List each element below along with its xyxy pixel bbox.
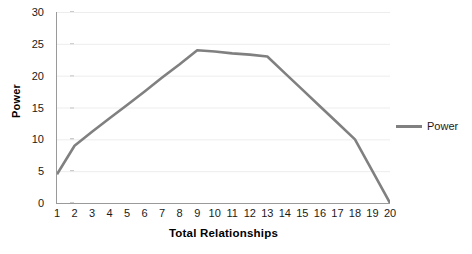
x-tick-label-17: 17	[331, 206, 343, 220]
series-line-power	[57, 50, 390, 203]
line-chart: 051015202530 123456789101112131415161718…	[0, 0, 472, 254]
x-tick-label-4: 4	[107, 206, 113, 220]
x-tick-label-19: 19	[366, 206, 378, 220]
x-axis-title: Total Relationships	[57, 227, 390, 239]
x-tick-label-16: 16	[314, 206, 326, 220]
x-tick-label-18: 18	[349, 206, 361, 220]
x-tick-label-11: 11	[227, 206, 238, 220]
x-tick-label-14: 14	[279, 206, 291, 220]
x-axis-line	[56, 203, 390, 204]
x-tick-label-12: 12	[244, 206, 256, 220]
x-axis-tick-labels: 1234567891011121314151617181920	[57, 206, 390, 222]
x-tick-label-3: 3	[89, 206, 95, 220]
x-tick-label-10: 10	[209, 206, 221, 220]
y-axis-title: Power	[10, 71, 22, 131]
legend-label-power: Power	[427, 120, 458, 132]
x-tick-label-5: 5	[124, 206, 130, 220]
x-tick-label-6: 6	[142, 206, 148, 220]
y-tick-label-0: 0	[38, 198, 44, 209]
y-tick-label-15: 15	[32, 102, 44, 113]
x-tick-label-13: 13	[261, 206, 273, 220]
x-tick-label-20: 20	[384, 206, 396, 220]
y-tick-label-30: 30	[32, 7, 44, 18]
plot-svg	[57, 12, 390, 203]
x-tick-label-8: 8	[177, 206, 183, 220]
x-tick-label-7: 7	[159, 206, 165, 220]
y-tick-label-25: 25	[32, 38, 44, 49]
x-tick-label-9: 9	[194, 206, 200, 220]
legend-line-swatch-power	[396, 125, 422, 128]
y-tick-label-20: 20	[32, 70, 44, 81]
chart-legend: Power	[396, 120, 458, 132]
y-tick-label-10: 10	[32, 134, 44, 145]
x-tick-label-1: 1	[54, 206, 60, 220]
plot-area	[57, 12, 390, 203]
y-tick-label-5: 5	[38, 166, 44, 177]
y-axis-tick-labels: 051015202530	[18, 12, 50, 203]
x-tick-label-15: 15	[296, 206, 308, 220]
series-lines	[57, 50, 390, 203]
gridlines	[57, 13, 390, 204]
x-tick-label-2: 2	[71, 206, 77, 220]
